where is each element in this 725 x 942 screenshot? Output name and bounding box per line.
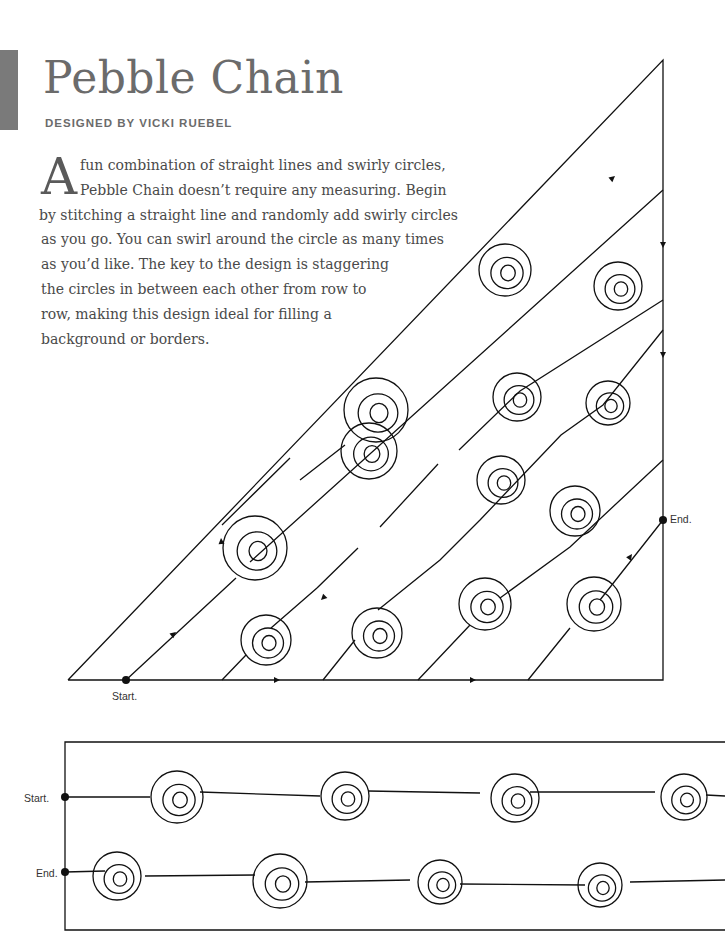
swirl-inner-loop xyxy=(497,476,510,490)
stitch-row xyxy=(65,871,725,885)
swirl-inner-loop xyxy=(437,878,449,891)
swirl-middle-ring xyxy=(579,591,612,623)
stitch-row xyxy=(222,445,345,525)
swirl-middle-ring xyxy=(605,275,635,304)
swirl-inner-loop xyxy=(681,793,694,807)
triangle-stitch-diagram xyxy=(68,60,667,684)
swirl-middle-ring xyxy=(104,865,134,894)
swirl-inner-loop xyxy=(614,282,627,296)
direction-arrow-icon xyxy=(626,554,632,561)
swirl-inner-loop xyxy=(364,446,380,463)
swirl-inner-loop xyxy=(373,629,387,644)
stitch-point-dot xyxy=(122,676,130,684)
swirl-middle-ring xyxy=(502,787,532,816)
border-end-label: End. xyxy=(36,867,58,879)
swirl-inner-loop xyxy=(370,403,388,422)
stitch-point-dot xyxy=(659,516,667,524)
stitch-row xyxy=(222,588,317,680)
triangle-end-label: End. xyxy=(670,513,692,525)
swirl-middle-ring xyxy=(491,257,523,288)
border-start-label: Start. xyxy=(24,792,49,804)
direction-arrow-icon xyxy=(660,352,666,358)
swirl-middle-ring xyxy=(237,532,277,570)
swirl-middle-ring xyxy=(358,394,398,432)
swirl-middle-ring xyxy=(504,386,534,415)
swirl-middle-ring xyxy=(488,469,518,498)
swirl-middle-ring xyxy=(332,785,362,814)
swirl-inner-loop xyxy=(262,636,276,651)
swirl-inner-loop xyxy=(275,876,290,892)
stitch-row xyxy=(528,520,663,680)
direction-arrow-icon xyxy=(608,176,615,182)
stitch-point-dot xyxy=(61,793,69,801)
swirl-inner-loop xyxy=(501,265,516,281)
swirl-inner-loop xyxy=(597,881,609,894)
swirl-inner-loop xyxy=(481,599,496,615)
stitch-point-dot xyxy=(61,868,69,876)
border-outline xyxy=(65,742,725,930)
swirl-inner-loop xyxy=(341,792,354,806)
direction-arrow-icon xyxy=(470,677,476,683)
swirl-inner-loop xyxy=(513,393,526,407)
swirl-middle-ring xyxy=(253,628,284,658)
swirl-middle-ring xyxy=(471,591,503,622)
swirl-inner-loop xyxy=(571,507,585,522)
swirl-middle-ring xyxy=(265,868,298,900)
swirl-middle-ring xyxy=(364,621,395,651)
swirl-inner-loop xyxy=(511,794,524,808)
swirl-middle-ring xyxy=(588,875,615,901)
swirl-middle-ring xyxy=(428,872,455,898)
swirl-middle-ring xyxy=(163,784,195,815)
swirl-inner-loop xyxy=(249,541,267,560)
direction-arrow-icon xyxy=(321,594,327,600)
swirl-inner-loop xyxy=(605,399,617,412)
direction-arrow-icon xyxy=(274,677,280,683)
stitch-row xyxy=(126,190,663,680)
swirl-middle-ring xyxy=(562,499,593,529)
stitch-row xyxy=(317,300,663,588)
swirl-inner-loop xyxy=(173,792,188,808)
direction-arrow-icon xyxy=(660,242,666,248)
swirl-middle-ring xyxy=(672,786,701,814)
swirl-inner-loop xyxy=(589,599,604,615)
stitch-row xyxy=(418,460,663,680)
stitch-diagrams: Start. End. Start. End. xyxy=(0,0,725,942)
border-stitch-diagram xyxy=(61,742,725,930)
stitch-row xyxy=(323,330,663,680)
triangle-start-label: Start. xyxy=(112,690,137,702)
swirl-inner-loop xyxy=(113,872,126,886)
